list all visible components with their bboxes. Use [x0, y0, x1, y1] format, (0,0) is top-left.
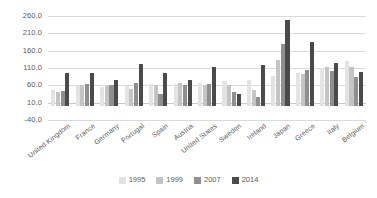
bar-group — [268, 16, 292, 120]
bar — [105, 86, 109, 106]
x-axis-tick-label: Belgium — [340, 122, 365, 144]
bar-chart: 260.0210.0160.0110.060.010.0-40.0 United… — [0, 0, 377, 198]
bar — [139, 64, 143, 106]
bar — [334, 63, 338, 106]
legend-swatch-icon — [119, 177, 126, 184]
bar — [296, 73, 300, 106]
bar — [198, 83, 202, 107]
y-axis: 260.0210.0160.0110.060.010.0-40.0 — [0, 16, 46, 120]
bar-group — [97, 16, 121, 120]
bar — [188, 80, 192, 106]
bar — [163, 73, 167, 107]
legend-label: 2014 — [242, 176, 259, 184]
bar — [285, 20, 289, 106]
bar — [227, 85, 231, 106]
y-axis-tick-label: -40.0 — [24, 116, 42, 124]
bar — [305, 70, 309, 106]
legend-label: 2007 — [204, 176, 221, 184]
bar-group — [195, 16, 219, 120]
legend-swatch-icon — [194, 177, 201, 184]
x-axis-tick-label: Germany — [93, 122, 121, 146]
bar — [301, 74, 305, 106]
bar — [61, 91, 65, 106]
bar — [134, 83, 138, 106]
bar — [114, 80, 118, 106]
bar — [109, 85, 113, 106]
bar — [256, 97, 260, 106]
legend-label: 1999 — [166, 176, 183, 184]
bar-group — [219, 16, 243, 120]
bar — [271, 76, 275, 107]
bar-group — [121, 16, 145, 120]
chart-legend: 1995199920072014 — [0, 176, 377, 184]
bar-group — [244, 16, 268, 120]
bar — [85, 84, 89, 106]
bar — [359, 72, 363, 106]
bar-group — [72, 16, 96, 120]
bar — [232, 92, 236, 106]
bar — [65, 73, 69, 107]
y-axis-tick-label: 60.0 — [27, 81, 42, 89]
bar — [237, 94, 241, 106]
bar — [149, 84, 153, 106]
bar — [80, 85, 84, 106]
bar-group — [146, 16, 170, 120]
bar-group — [170, 16, 194, 120]
legend-swatch-icon — [232, 177, 239, 184]
bar — [222, 81, 226, 106]
x-axis: United KingdomFranceGermanyPortugalSpain… — [48, 120, 366, 172]
legend-label: 1995 — [129, 176, 146, 184]
bar — [178, 83, 182, 106]
bar-groups — [48, 16, 366, 120]
bar-group — [48, 16, 72, 120]
bar — [349, 67, 353, 106]
bar — [281, 44, 285, 106]
bar — [90, 73, 94, 106]
bar — [320, 68, 324, 106]
bar — [56, 92, 60, 107]
bar — [158, 94, 162, 106]
y-axis-tick-label: 110.0 — [23, 64, 42, 72]
bar — [154, 85, 158, 106]
bar-group — [342, 16, 366, 120]
bar — [125, 86, 129, 106]
x-axis-tick-label: United Kingdom — [27, 122, 72, 160]
bar — [207, 84, 211, 107]
x-axis-tick-label: Japan — [272, 122, 292, 140]
bar — [354, 77, 358, 106]
bar — [129, 89, 133, 106]
bar — [330, 71, 334, 106]
bar — [252, 90, 256, 106]
bar — [345, 61, 349, 106]
x-axis-tick-label: Sweden — [218, 122, 243, 144]
bar — [51, 90, 55, 107]
legend-item[interactable]: 2007 — [194, 176, 221, 184]
bar — [174, 84, 178, 107]
x-axis-tick-label: Ireland — [245, 122, 267, 142]
legend-item[interactable]: 2014 — [232, 176, 259, 184]
bar-group — [293, 16, 317, 120]
plot-area — [48, 16, 366, 120]
y-axis-tick-label: 210.0 — [23, 29, 42, 37]
legend-item[interactable]: 1999 — [156, 176, 183, 184]
y-axis-tick-label: 160.0 — [23, 47, 42, 55]
y-axis-tick-label: 260.0 — [23, 12, 42, 20]
bar — [212, 67, 216, 106]
bar — [261, 65, 265, 106]
bar — [76, 86, 80, 106]
bar — [203, 85, 207, 106]
legend-swatch-icon — [156, 177, 163, 184]
bar — [325, 67, 329, 106]
bar — [276, 60, 280, 106]
y-axis-tick-label: 10.0 — [27, 99, 42, 107]
bar — [310, 42, 314, 106]
bar-group — [317, 16, 341, 120]
x-axis-tick-label: Italy — [326, 122, 341, 137]
x-axis-tick-label: Portugal — [119, 122, 145, 145]
x-axis-tick-label: Spain — [151, 122, 170, 140]
bar — [247, 80, 251, 106]
x-axis-tick-label: Greece — [293, 122, 316, 143]
bar — [100, 87, 104, 106]
legend-item[interactable]: 1995 — [119, 176, 146, 184]
bar — [183, 85, 187, 106]
